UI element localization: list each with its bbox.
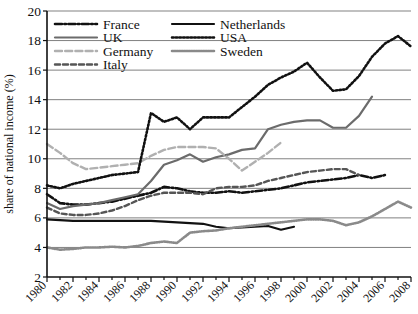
x-tick-label-2008: 2008 [386,278,413,305]
legend-label-sweden: Sweden [220,44,263,59]
x-tick-label-1990: 1990 [152,278,179,305]
y-tick-label-16: 16 [28,63,42,78]
series-line-sweden [47,202,411,250]
x-tick-label-2006: 2006 [360,278,387,305]
x-tick-label-1988: 1988 [126,278,153,305]
y-tick-label-12: 12 [28,122,42,137]
series-line-usa [47,36,411,188]
y-tick-label-8: 8 [34,181,41,196]
legend-item-france: France [55,17,140,32]
x-tick-label-1996: 1996 [230,278,257,305]
x-tick-label-1992: 1992 [178,278,205,305]
legend-item-sweden: Sweden [172,44,263,59]
x-tick-label-2000: 2000 [282,278,309,305]
line-chart: 2468101214161820198019821984198619881990… [0,0,418,314]
y-tick-label-10: 10 [28,151,42,166]
x-tick-label-1982: 1982 [48,278,75,305]
y-tick-label-14: 14 [28,92,42,107]
x-tick-label-2002: 2002 [308,278,335,305]
y-tick-label-6: 6 [34,210,41,225]
x-tick-label-1998: 1998 [256,278,283,305]
chart-canvas: 2468101214161820198019821984198619881990… [0,0,418,314]
y-tick-label-20: 20 [28,4,42,19]
legend-label-italy: Italy [103,57,128,72]
x-tick-label-1986: 1986 [100,278,127,305]
x-tick-label-1984: 1984 [74,278,101,305]
x-tick-label-2004: 2004 [334,278,361,305]
x-tick-label-1980: 1980 [22,278,49,305]
y-axis-title: share of national income (%) [2,74,16,213]
y-tick-label-4: 4 [34,240,41,255]
x-tick-label-1994: 1994 [204,278,231,305]
y-tick-label-18: 18 [28,33,42,48]
